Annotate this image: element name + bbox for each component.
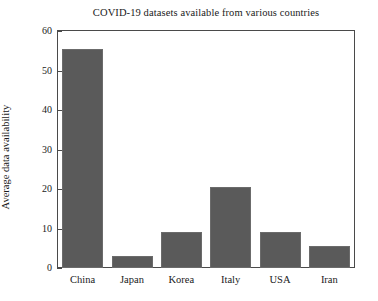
y-tick-label: 0 (12, 263, 52, 273)
y-tick-label: 50 (12, 66, 52, 76)
y-tick-label: 60 (12, 26, 52, 36)
bar (210, 187, 251, 268)
chart-figure: COVID-19 datasets available from various… (0, 0, 378, 301)
chart-title: COVID-19 datasets available from various… (57, 7, 355, 18)
y-tick-label: 30 (12, 145, 52, 155)
y-tick-label: 10 (12, 224, 52, 234)
y-tick-label: 40 (12, 105, 52, 115)
x-tick-label: Iran (294, 274, 364, 285)
bar (62, 49, 103, 268)
bar (260, 232, 301, 268)
bar (161, 232, 202, 268)
y-tick-mark (57, 268, 62, 269)
bar (309, 246, 350, 268)
bar (112, 256, 153, 268)
plot-area (58, 31, 354, 268)
y-tick-label: 20 (12, 184, 52, 194)
